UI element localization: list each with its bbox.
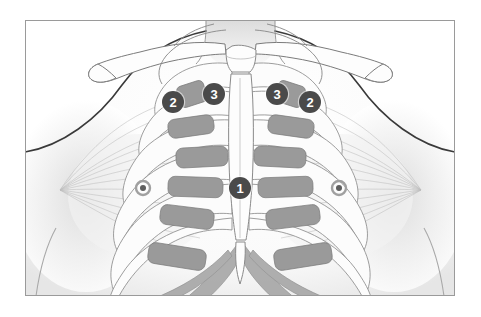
marker-3-right[interactable]: 3 <box>265 82 289 106</box>
marker-1-circle[interactable] <box>229 177 251 199</box>
nipple-left-center <box>140 185 146 191</box>
marker-1[interactable]: 1 <box>228 176 252 200</box>
cartilage-block-left-3 <box>176 146 229 169</box>
marker-2-left[interactable]: 2 <box>161 90 185 114</box>
cartilage-block-right-4 <box>258 176 314 198</box>
marker-3-left[interactable]: 3 <box>202 82 226 106</box>
chest-anatomy-illustration: 12332 <box>0 0 481 317</box>
manubrium <box>226 45 256 72</box>
sternum-body <box>229 74 254 240</box>
marker-2-right-circle[interactable] <box>299 91 321 113</box>
marker-2-left-circle[interactable] <box>162 91 184 113</box>
cartilage-block-right-3 <box>254 146 307 169</box>
chest-anatomy-figure: 12332 <box>0 0 481 317</box>
cartilage-block-left-4 <box>168 176 224 198</box>
marker-3-left-circle[interactable] <box>203 83 225 105</box>
illustration-canvas <box>12 20 468 316</box>
nipple-right-center <box>336 185 342 191</box>
marker-2-right[interactable]: 2 <box>298 90 322 114</box>
marker-3-right-circle[interactable] <box>266 83 288 105</box>
